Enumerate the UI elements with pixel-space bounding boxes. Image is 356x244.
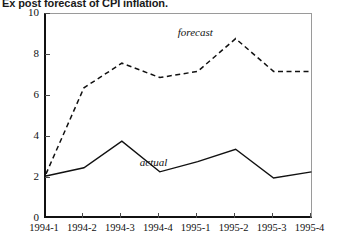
y-tick-mark: [45, 13, 50, 14]
y-tick-label: 10: [0, 6, 39, 18]
x-tick-mark: [158, 213, 159, 218]
y-tick-mark: [45, 177, 50, 178]
series-line-actual: [46, 141, 312, 178]
series-annotation-actual: actual: [140, 156, 168, 168]
y-tick-label: 4: [0, 129, 39, 141]
y-tick-mark: [45, 136, 50, 137]
x-tick-mark: [234, 213, 235, 218]
x-tick-label: 1995-4: [284, 222, 336, 233]
x-tick-mark: [272, 213, 273, 218]
y-tick-label: 0: [0, 211, 39, 223]
y-tick-label: 2: [0, 170, 39, 182]
y-tick-mark: [45, 54, 50, 55]
x-tick-mark: [120, 213, 121, 218]
y-tick-label: 8: [0, 47, 39, 59]
series-line-forecast: [46, 39, 312, 174]
x-tick-mark: [196, 213, 197, 218]
y-tick-mark: [45, 95, 50, 96]
y-tick-label: 6: [0, 88, 39, 100]
x-tick-mark: [310, 213, 311, 218]
x-tick-mark: [82, 213, 83, 218]
figure-root: Ex post forecast of CPI inflation. INFL,…: [0, 0, 356, 244]
chart-canvas: [46, 14, 314, 219]
series-annotation-forecast: forecast: [178, 26, 213, 38]
plot-area: [44, 13, 312, 218]
